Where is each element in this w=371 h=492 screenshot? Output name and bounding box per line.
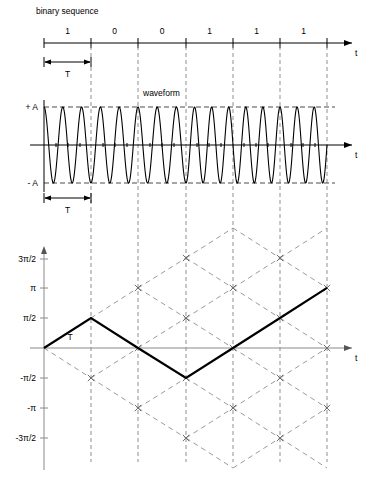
- trellis-branch: [186, 408, 233, 438]
- phase-tick-label-2: π/2: [23, 313, 36, 323]
- trellis-branch: [280, 378, 327, 408]
- bit-label-4: 1: [254, 26, 259, 36]
- trellis-branch: [91, 348, 138, 378]
- trellis-branch: [138, 378, 186, 408]
- bit-label-2: 0: [160, 26, 165, 36]
- figure-canvas: binary sequence 1 0 0 1 1 1 t: [0, 0, 371, 492]
- trellis-branch: [186, 378, 233, 408]
- trellis-branch: [138, 258, 186, 288]
- trellis-branch: [91, 378, 138, 408]
- phase-y-axis-arrowhead: [41, 246, 47, 254]
- bit-label-1: 0: [112, 26, 117, 36]
- bit-label-3: 1: [207, 26, 212, 36]
- bit-period-arrow-left-top: [44, 59, 51, 64]
- binary-axis-label: t: [355, 48, 358, 58]
- trellis-branch: [280, 318, 327, 348]
- bit-period-measure-wave: T: [44, 193, 91, 215]
- binary-axis-arrowhead: [344, 40, 352, 46]
- trellis-branch: [280, 228, 327, 258]
- trellis-branch: [280, 348, 327, 378]
- waveform-axis-label: t: [355, 150, 358, 160]
- trellis-branch: [186, 438, 233, 468]
- vertical-gridlines: [91, 46, 327, 462]
- trellis-branch: [233, 378, 280, 408]
- phase-tick-label-1: π: [30, 283, 36, 293]
- bit-period-arrow-right-top: [84, 59, 91, 64]
- bit-period-measure-top: T: [44, 57, 91, 79]
- trellis-branch: [186, 288, 233, 318]
- bit-period-label-phase: T: [67, 332, 72, 342]
- amplitude-negative-label: - A: [28, 178, 39, 188]
- trellis-branch: [233, 438, 280, 468]
- bit-period-arrow-left-wave: [44, 195, 51, 200]
- bit-period-arrow-right-wave: [84, 195, 91, 200]
- phase-x-axis-arrowhead: [344, 345, 352, 351]
- phase-axis-label: t: [355, 353, 358, 363]
- trellis-branch: [280, 408, 327, 438]
- waveform-axis-arrowhead: [344, 142, 352, 148]
- trellis-branch: [233, 258, 280, 288]
- bit-label-5: 1: [301, 26, 306, 36]
- trellis-branch: [186, 318, 233, 348]
- bit-label-0: 1: [65, 26, 70, 36]
- trellis-branch: [233, 288, 280, 318]
- phase-tick-label-4: -π: [27, 403, 36, 413]
- amplitude-positive-label: + A: [25, 102, 38, 112]
- binary-sequence-panel: binary sequence 1 0 0 1 1 1 t: [36, 6, 358, 79]
- waveform-panel: waveform + A - A t: [25, 88, 358, 215]
- trellis-branch: [91, 288, 138, 318]
- trellis-branch: [280, 258, 327, 288]
- phase-trellis-panel: t 3π/2 π π/2 -π/2 -π -3π/2: [15, 228, 358, 470]
- trellis-branch: [44, 348, 91, 378]
- trellis-branch: [138, 288, 186, 318]
- waveform-title: waveform: [142, 88, 180, 98]
- bit-period-label-top: T: [65, 69, 70, 79]
- trellis-branch: [138, 318, 186, 348]
- trellis-branch: [186, 228, 233, 258]
- trellis-branch: [280, 438, 327, 468]
- trellis-branch: [233, 408, 280, 438]
- binary-sequence-title: binary sequence: [36, 6, 99, 16]
- trellis-branch: [233, 348, 280, 378]
- phase-tick-label-0: 3π/2: [18, 254, 36, 264]
- bit-period-label-wave: T: [65, 205, 70, 215]
- trellis-branch: [138, 408, 186, 438]
- trellis-branch: [233, 228, 280, 258]
- trellis-branch: [186, 258, 233, 288]
- msk-phase-trellis-figure: binary sequence 1 0 0 1 1 1 t: [0, 0, 371, 492]
- phase-tick-label-5: -3π/2: [15, 433, 36, 443]
- phase-tick-label-3: -π/2: [20, 373, 36, 383]
